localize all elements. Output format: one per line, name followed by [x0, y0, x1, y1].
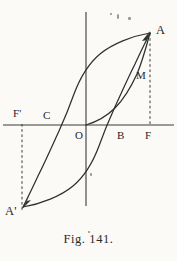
scan-speck — [90, 173, 92, 176]
label-b-point: B — [117, 130, 125, 141]
label-f-right: F — [145, 130, 151, 141]
scan-speck — [117, 14, 119, 19]
label-origin: O — [75, 130, 83, 141]
label-c-point: C — [43, 110, 51, 121]
scan-speck — [110, 13, 112, 15]
label-f-left: F' — [13, 108, 22, 119]
scan-speck — [128, 17, 131, 20]
label-m-point: M — [136, 70, 146, 81]
label-a-lower: A' — [5, 205, 17, 218]
hysteresis-figure: A A' F F' C B M O Fig. 141. — [0, 0, 177, 261]
figure-caption: Fig. 141. — [0, 232, 177, 247]
label-a-upper: A — [156, 24, 165, 37]
